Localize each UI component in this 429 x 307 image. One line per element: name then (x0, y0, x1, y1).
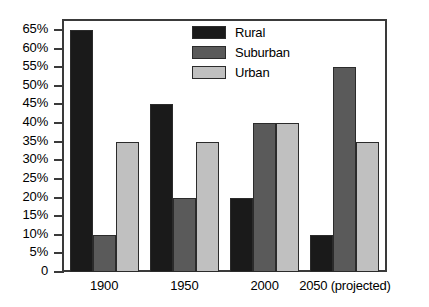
y-axis-tick (54, 85, 64, 87)
y-axis-tick (54, 48, 64, 50)
legend-item-urban: Urban (192, 64, 290, 81)
y-axis-tick (54, 29, 64, 31)
y-axis-label: 45% (23, 95, 48, 110)
y-axis-tick (54, 122, 64, 124)
y-axis-tick (54, 103, 64, 105)
legend: RuralSuburbanUrban (192, 24, 290, 84)
legend-swatch-suburban (192, 46, 226, 59)
y-axis-label: 30% (23, 151, 48, 166)
y-axis-label: 5% (30, 244, 48, 259)
y-axis-label: 10% (23, 226, 48, 241)
y-axis-tick (54, 252, 64, 254)
y-axis-tick (54, 234, 64, 236)
y-axis-label: 15% (23, 207, 48, 222)
y-axis-label: 0 (41, 263, 48, 278)
y-axis-label: 25% (23, 170, 48, 185)
bar-chart: 05%10%15%20%25%30%35%40%45%50%55%60%65% … (0, 0, 429, 307)
legend-item-suburban: Suburban (192, 44, 290, 61)
y-axis-label: 55% (23, 58, 48, 73)
y-axis-label: 50% (23, 77, 48, 92)
legend-item-rural: Rural (192, 24, 290, 41)
legend-swatch-rural (192, 26, 226, 39)
legend-swatch-urban (192, 66, 226, 79)
legend-label: Suburban (235, 46, 290, 59)
y-axis-tick (54, 159, 64, 161)
y-axis-tick (54, 141, 64, 143)
y-axis-tick (54, 215, 64, 217)
y-axis-tick (54, 178, 64, 180)
y-axis-label: 65% (23, 21, 48, 36)
y-axis-tick (54, 197, 64, 199)
legend-label: Urban (235, 66, 269, 79)
y-axis-label: 35% (23, 133, 48, 148)
y-axis-label: 20% (23, 189, 48, 204)
y-axis-label: 60% (23, 40, 48, 55)
y-axis-tick (54, 66, 64, 68)
legend-label: Rural (235, 26, 265, 39)
y-axis-tick (54, 271, 64, 273)
y-axis-label: 40% (23, 114, 48, 129)
x-axis-label: 2050 (projected) (285, 278, 405, 293)
